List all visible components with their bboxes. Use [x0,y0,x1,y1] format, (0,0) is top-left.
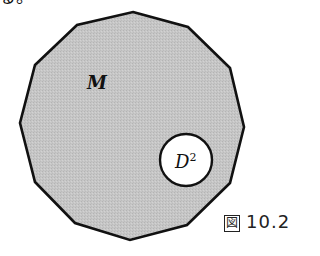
region-m-label: M [86,72,108,93]
figure-kanji-label: 図 [224,215,240,232]
figure-number: 10.2 [246,211,290,232]
region-m-polygon [20,12,244,240]
figure-caption: 図10.2 [224,211,290,232]
